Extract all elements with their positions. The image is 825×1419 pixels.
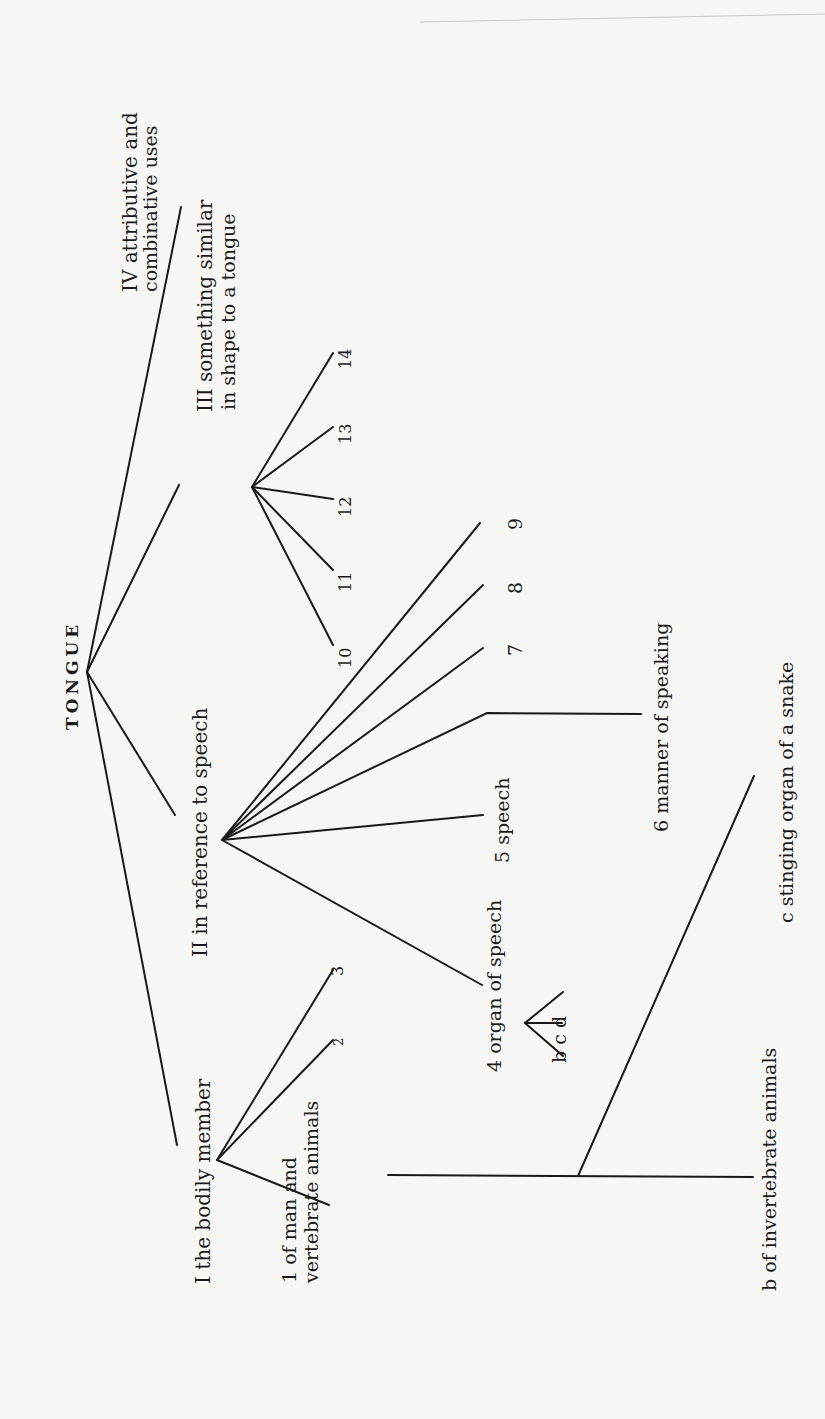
sense-10-label: 10 — [336, 648, 355, 668]
edge-II-5 — [222, 815, 483, 840]
branch-III-label-line1: III something similar — [193, 199, 217, 412]
edge-b-invertebrate — [388, 1175, 753, 1177]
sense-c-snake-label: c stinging organ of a snake — [775, 662, 797, 923]
edge-II-8 — [222, 585, 483, 840]
edge-II-6 — [222, 713, 641, 840]
sense-14-label: 14 — [336, 349, 355, 369]
branch-I-label: I the bodily member — [191, 1078, 215, 1284]
branch-IV-label-line2: combinative uses — [139, 125, 161, 292]
sense-4-label: 4 organ of speech — [483, 900, 505, 1072]
branch-III-label-line2: in shape to a tongue — [217, 213, 239, 410]
sense-5-label: 5 speech — [491, 778, 513, 863]
branch-II-label: II in reference to speech — [188, 708, 212, 957]
edge-II-7 — [222, 648, 483, 840]
tongue-sense-tree-diagram: TONGUE IV attributive and combinative us… — [0, 0, 825, 1419]
sense-1-label-line1: 1 of man and — [278, 1157, 300, 1283]
edge-root-I — [87, 672, 177, 1145]
sense-2-label: 2 — [331, 1038, 346, 1046]
sense-1-label-line2: vertebrate animals — [300, 1101, 322, 1284]
book-page: TONGUE IV attributive and combinative us… — [0, 0, 825, 1419]
sense-3-label: 3 — [328, 966, 347, 976]
sense-6-label: 6 manner of speaking — [650, 623, 672, 832]
sense-4-sublabels: b c d — [548, 1016, 570, 1063]
edge-III-14 — [252, 353, 333, 487]
root-label-tongue: TONGUE — [62, 621, 82, 730]
sense-11-label: 11 — [336, 572, 355, 592]
edge-root-III — [87, 485, 179, 672]
tree-labels: TONGUE IV attributive and combinative us… — [62, 112, 797, 1291]
edge-III-13 — [252, 427, 333, 487]
sense-13-label: 13 — [336, 424, 355, 444]
sense-9-label: 9 — [504, 518, 526, 530]
edge-III-11 — [252, 487, 333, 570]
page-top-rule — [420, 14, 825, 22]
sense-8-label: 8 — [504, 582, 526, 594]
edge-c-snake — [578, 776, 754, 1176]
edge-III-10 — [252, 487, 333, 645]
edge-III-12 — [252, 487, 333, 499]
edge-II-9 — [222, 523, 480, 840]
sense-12-label: 12 — [336, 497, 355, 517]
sense-7-label: 7 — [504, 644, 526, 656]
edge-II-4 — [222, 840, 482, 985]
sense-b-invertebrate-label: b of invertebrate animals — [758, 1048, 780, 1291]
